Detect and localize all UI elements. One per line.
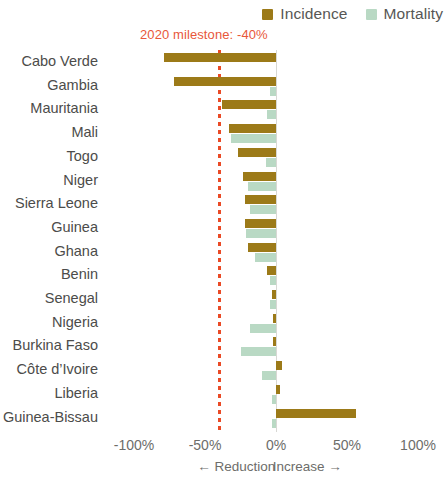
bar-row: Liberia [0,385,447,409]
bar-group [0,219,447,243]
bar-group [0,337,447,361]
axis-tick-label: -50% [189,437,222,453]
axis-tick-label: -100% [114,437,154,453]
bar-row: Gambia [0,77,447,101]
square-swatch-icon [262,9,273,20]
bar-mortality [255,253,276,262]
bar-incidence [273,314,276,323]
bar-group [0,266,447,290]
bar-mortality [241,347,277,356]
bar-mortality [270,300,276,309]
axis-tick-label: 50% [333,437,361,453]
bar-incidence [276,361,282,370]
bar-group [0,361,447,385]
bar-mortality [246,229,276,238]
bar-row: Nigeria [0,314,447,338]
bar-row: Niger [0,172,447,196]
bar-row: Togo [0,148,447,172]
square-swatch-icon [366,9,377,20]
bar-group [0,290,447,314]
bar-row: Mauritania [0,100,447,124]
bar-row: Burkina Faso [0,337,447,361]
bar-incidence [267,266,276,275]
legend-item-mortality: Mortality [366,6,443,22]
bar-group [0,385,447,409]
chart-plot-area: Cabo VerdeGambiaMauritaniaMaliTogoNigerS… [0,50,447,432]
bar-row: Ghana [0,243,447,267]
axis-caption: Increase → [273,459,342,474]
milestone-annotation-label: 2020 milestone: -40% [140,27,268,42]
bar-group [0,243,447,267]
bar-mortality [248,182,276,191]
bar-group [0,53,447,77]
bar-mortality [267,110,276,119]
bar-incidence [164,53,276,62]
legend-label-mortality: Mortality [384,6,443,22]
bar-incidence [238,148,276,157]
bar-group [0,409,447,433]
bar-mortality [270,87,276,96]
bar-incidence [243,172,276,181]
bar-incidence [272,290,276,299]
bar-row: Guinea [0,219,447,243]
axis-caption: ← Reduction [197,459,275,474]
bar-incidence [245,219,276,228]
axis-tick-label: 100% [400,437,436,453]
bar-group [0,100,447,124]
bar-row: Benin [0,266,447,290]
bar-incidence [276,409,356,418]
bar-incidence [273,337,276,346]
bar-incidence [276,385,280,394]
bar-incidence [229,124,276,133]
bar-mortality [266,158,276,167]
bar-group [0,77,447,101]
bar-group [0,124,447,148]
bar-mortality [272,395,276,404]
axis-tick-label: 0% [266,437,286,453]
bar-row: Côte d’Ivoire [0,361,447,385]
bar-mortality [250,205,276,214]
bar-incidence [245,195,276,204]
bar-group [0,195,447,219]
bar-mortality [250,324,276,333]
legend-label-incidence: Incidence [280,6,347,22]
bar-incidence [174,77,276,86]
bar-incidence [248,243,276,252]
chart-legend: Incidence Mortality [262,4,443,24]
bar-row: Mali [0,124,447,148]
bar-group [0,314,447,338]
bar-group [0,148,447,172]
x-axis-captions: ← ReductionIncrease → [0,459,447,479]
bar-row: Sierra Leone [0,195,447,219]
bar-row: Senegal [0,290,447,314]
bar-row: Guinea-Bissau [0,409,447,433]
legend-item-incidence: Incidence [262,6,347,22]
bar-mortality [272,419,276,428]
bar-row: Cabo Verde [0,53,447,77]
x-axis-ticks: -100%-50%0%50%100% [0,437,447,457]
bar-group [0,172,447,196]
bar-mortality [270,276,276,285]
bar-incidence [222,100,276,109]
bar-mortality [262,371,276,380]
bar-mortality [231,134,276,143]
